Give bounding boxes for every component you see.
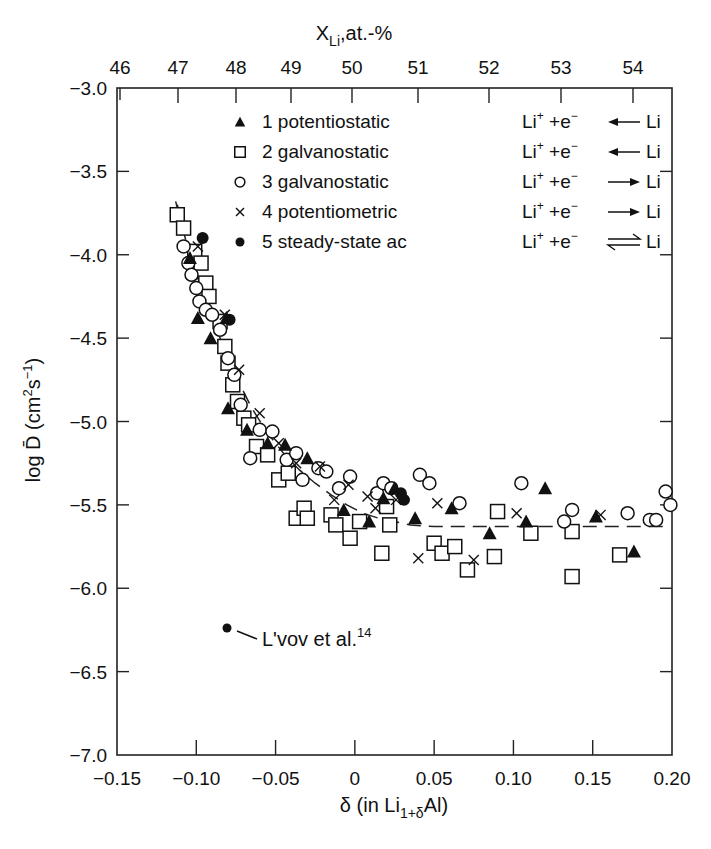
data-point	[613, 548, 627, 562]
legend-label: 4 potentiometric	[262, 201, 397, 222]
svg-text:Li+ +e−: Li+ +e−	[522, 139, 578, 162]
reaction-arrow-icon	[608, 148, 640, 156]
data-point	[491, 505, 505, 519]
legend-reactions: Li+ +e−LiLi+ +e−LiLi+ +e−LiLi+ +e−LiLi+ …	[522, 109, 661, 252]
data-point	[290, 447, 303, 460]
data-point	[487, 550, 501, 564]
data-point	[621, 507, 634, 520]
legend-reaction: Li+ +e−Li	[522, 139, 661, 162]
top-axis-ticks: 464748495051525354	[109, 57, 644, 103]
annotation-leader	[237, 631, 257, 639]
series-3	[177, 240, 677, 528]
reaction-arrow-icon	[608, 208, 640, 216]
top-tick-label: 49	[280, 57, 301, 78]
y-tick-label: −4.0	[69, 245, 107, 266]
x-tick-label: 0	[350, 768, 361, 789]
top-tick-label: 51	[407, 57, 428, 78]
data-point	[515, 477, 528, 490]
x-tick-label: 0.20	[654, 768, 691, 789]
y-tick-label: −5.5	[69, 495, 107, 516]
data-point	[566, 503, 579, 516]
data-point	[589, 510, 603, 523]
x-tick-label: 0.15	[574, 768, 611, 789]
data-point	[214, 323, 227, 336]
data-point	[244, 452, 257, 465]
svg-text:Li: Li	[646, 141, 661, 162]
legend-reaction: Li+ +e−Li	[522, 199, 661, 222]
legend: 1 potentiostatic2 galvanostatic3 galvano…	[235, 111, 407, 252]
svg-text:Li+ +e−: Li+ +e−	[522, 199, 578, 222]
top-tick-label: 54	[622, 57, 644, 78]
svg-text:Li: Li	[646, 111, 661, 132]
legend-label: 2 galvanostatic	[262, 141, 389, 162]
data-point	[375, 546, 389, 560]
square-open-icon	[235, 147, 246, 158]
data-point	[519, 515, 533, 528]
data-point	[261, 448, 275, 462]
data-point	[296, 473, 309, 486]
top-tick-label: 48	[225, 57, 246, 78]
y-tick-label: −6.5	[69, 662, 107, 683]
data-point	[664, 498, 677, 511]
svg-text:Li+ +e−: Li+ +e−	[522, 109, 578, 132]
lvov-annotation: L'vov et al.14	[223, 624, 372, 651]
data-point	[408, 511, 422, 524]
legend-reaction: Li+ +e−Li	[522, 229, 661, 252]
data-point	[190, 282, 203, 295]
legend-label: 3 galvanostatic	[262, 171, 389, 192]
data-point	[300, 511, 314, 525]
legend-item: 1 potentiostatic	[235, 111, 390, 132]
data-point	[170, 208, 184, 222]
top-tick-label: 46	[109, 57, 130, 78]
data-point	[432, 498, 442, 508]
data-point	[650, 513, 663, 526]
data-point	[383, 518, 397, 532]
y-axis-title: log D̄ (cm2s−1)	[20, 358, 44, 482]
legend-reaction: Li+ +e−Li	[522, 169, 661, 192]
legend-label: 1 potentiostatic	[262, 111, 390, 132]
y-tick-label: −4.5	[69, 328, 107, 349]
series-2	[170, 208, 626, 584]
data-point	[460, 563, 474, 577]
top-axis-title: XLi,at.-%	[316, 22, 393, 49]
x-tick-label: −0.15	[93, 768, 141, 789]
reaction-arrow-icon	[608, 118, 640, 126]
data-point	[343, 531, 357, 545]
data-point	[222, 352, 235, 365]
data-point	[197, 232, 209, 244]
top-tick-label: 53	[550, 57, 571, 78]
data-point	[558, 515, 571, 528]
data-point	[177, 240, 190, 253]
triangle-filled-icon	[235, 117, 246, 127]
x-tick-label: 0.10	[495, 768, 532, 789]
data-point	[320, 465, 333, 478]
y-tick-label: −5.0	[69, 412, 107, 433]
data-point	[234, 398, 247, 411]
data-point	[448, 540, 462, 554]
legend-label: 5 steady-state ac	[262, 231, 407, 252]
legend-item: 2 galvanostatic	[235, 141, 389, 162]
x-axis-title: δ (in Li1+δAl)	[340, 794, 448, 821]
reaction-arrow-icon	[608, 178, 640, 186]
y-tick-label: −7.0	[69, 745, 107, 766]
data-point	[255, 408, 265, 418]
legend-item: 3 galvanostatic	[235, 171, 389, 192]
svg-text:Li+ +e−: Li+ +e−	[522, 229, 578, 252]
top-tick-label: 52	[478, 57, 499, 78]
data-point	[333, 482, 346, 495]
svg-text:Li: Li	[646, 201, 661, 222]
y-tick-label: −3.0	[69, 78, 107, 99]
data-point	[253, 423, 266, 436]
data-point	[266, 425, 279, 438]
annotation-text: L'vov et al.	[262, 628, 357, 650]
lvov-point	[223, 624, 232, 633]
svg-text:L'vov et al.14: L'vov et al.14	[262, 625, 371, 650]
data-point	[627, 545, 641, 558]
data-point	[329, 518, 343, 532]
top-tick-label: 47	[167, 57, 188, 78]
data-point	[512, 508, 522, 518]
plot-frame	[117, 88, 672, 755]
data-point	[398, 494, 410, 506]
data-point	[565, 570, 579, 584]
cross-icon	[236, 208, 244, 216]
